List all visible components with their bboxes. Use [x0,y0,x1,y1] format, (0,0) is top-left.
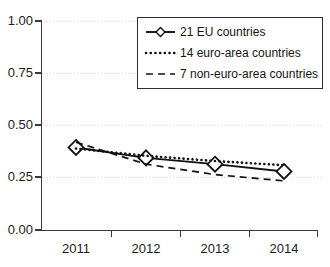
x-tick-label-2011: 2011 [62,241,90,256]
y-tick-label-1-00: 1.00 [8,13,33,28]
x-tick-label-2013: 2013 [201,241,230,256]
y-tick-label-0-25: 0.25 [8,169,33,184]
y-tick-label-0-00: 0.00 [8,222,33,237]
legend-label-euro-area: 14 euro-area countries [180,46,301,60]
legend-label-eu: 21 EU countries [180,25,265,39]
x-tick-label-2014: 2014 [270,241,299,256]
legend-label-non-euro-area: 7 non-euro-area countries [180,67,318,81]
x-tick-label-2012: 2012 [132,241,161,256]
line-chart: 1.00 0.75 0.50 0.25 0.00 2011 2012 2013 … [0,0,330,267]
y-tick-label-0-50: 0.50 [8,117,33,132]
chart-legend: 21 EU countries 14 euro-area countries 7… [138,18,323,89]
y-tick-label-0-75: 0.75 [8,65,33,80]
chart-canvas: 1.00 0.75 0.50 0.25 0.00 2011 2012 2013 … [0,0,330,267]
